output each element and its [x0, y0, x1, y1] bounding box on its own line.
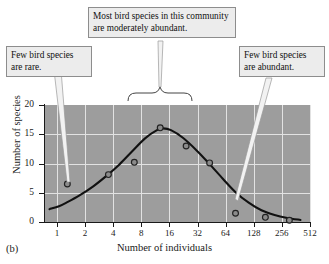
gridline-vertical-512: [310, 105, 311, 222]
y-tick-10: [39, 164, 45, 165]
y-tick-0: [39, 222, 45, 223]
gridline-vertical-256: [282, 105, 283, 222]
x-ticklabel-32: 32: [183, 229, 213, 238]
gridline-vertical-8: [141, 105, 142, 222]
x-tick-256: [282, 222, 283, 227]
x-tick-2: [85, 222, 86, 227]
x-ticklabel-1: 1: [42, 229, 72, 238]
x-tick-128: [254, 222, 255, 227]
gridline-vertical-1: [57, 105, 58, 222]
x-tick-8: [141, 222, 142, 227]
x-tick-4: [113, 222, 114, 227]
y-tick-15: [39, 134, 45, 135]
leader-line-moderate: [158, 41, 163, 87]
x-ticklabel-2: 2: [70, 229, 100, 238]
x-ticklabel-64: 64: [211, 229, 241, 238]
y-tick-5: [39, 193, 45, 194]
x-tick-16: [169, 222, 170, 227]
callout-most-species-moderate: Most bird species in this community are …: [88, 7, 236, 38]
x-ticklabel-4: 4: [98, 229, 128, 238]
x-ticklabel-8: 8: [126, 229, 156, 238]
callout-few-species-abundant: Few bird species are abundant.: [239, 46, 325, 77]
gridline-vertical-128: [254, 105, 255, 222]
gridline-vertical-32: [198, 105, 199, 222]
curly-brace-bracket: [128, 86, 192, 101]
x-ticklabel-512: 512: [295, 229, 325, 238]
x-ticklabel-256: 256: [267, 229, 297, 238]
gridline-vertical-4: [113, 105, 114, 222]
y-tick-20: [39, 105, 45, 106]
x-tick-64: [226, 222, 227, 227]
gridline-vertical-16: [169, 105, 170, 222]
x-tick-32: [198, 222, 199, 227]
x-ticklabel-16: 16: [154, 229, 184, 238]
callout-few-species-rare: Few bird species are rare.: [6, 46, 92, 77]
x-axis-line: [44, 222, 311, 223]
y-ticklabel-0: 0: [0, 217, 34, 227]
plot-area: [45, 105, 310, 222]
y-axis-title: Number of species: [11, 75, 22, 195]
x-tick-1: [57, 222, 58, 227]
x-ticklabel-128: 128: [239, 229, 269, 238]
figure-panel-b: 20 15 10 5 0 1 2 4 8 16 32 64 128 256 51…: [0, 0, 329, 264]
panel-label: (b): [6, 243, 18, 254]
x-axis-title: Number of individuals: [0, 242, 329, 253]
gridline-vertical-2: [85, 105, 86, 222]
x-tick-512: [310, 222, 311, 227]
gridline-vertical-64: [226, 105, 227, 222]
